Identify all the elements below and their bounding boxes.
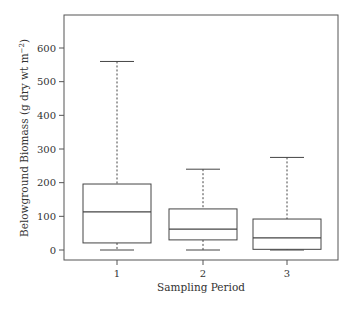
y-axis-title: Belowground Biomass (g dry wt m−2) bbox=[18, 39, 30, 237]
boxes bbox=[83, 61, 321, 250]
y-axis-title-close: ) bbox=[18, 39, 30, 43]
y-axis: 0100200300400500600 bbox=[37, 43, 64, 256]
box-plot: 0100200300400500600 123 Sampling Period … bbox=[0, 0, 355, 309]
y-tick-label: 400 bbox=[37, 110, 56, 121]
iqr-box bbox=[253, 219, 321, 249]
iqr-box bbox=[83, 184, 151, 243]
y-axis-title-exponent: −2 bbox=[18, 43, 26, 53]
box-2 bbox=[169, 169, 237, 250]
x-tick-label: 1 bbox=[114, 268, 120, 279]
y-tick-label: 0 bbox=[50, 245, 56, 256]
x-tick-label: 2 bbox=[200, 268, 206, 279]
x-axis: 123 bbox=[114, 260, 290, 279]
y-tick-label: 500 bbox=[37, 76, 56, 87]
box-1 bbox=[83, 61, 151, 250]
x-tick-label: 3 bbox=[284, 268, 290, 279]
iqr-box bbox=[169, 209, 237, 240]
y-tick-label: 100 bbox=[37, 211, 56, 222]
x-axis-title: Sampling Period bbox=[157, 281, 245, 293]
y-tick-label: 600 bbox=[37, 43, 56, 54]
box-3 bbox=[253, 157, 321, 250]
y-tick-label: 300 bbox=[37, 144, 56, 155]
y-tick-label: 200 bbox=[37, 177, 56, 188]
